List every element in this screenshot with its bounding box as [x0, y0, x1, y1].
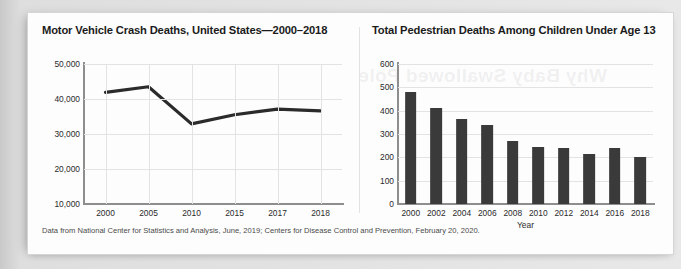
x-axis-tick-label: 2015: [225, 208, 244, 218]
gridline-vertical: [235, 64, 236, 204]
bar: [405, 92, 417, 204]
y-axis-tick-label: 300: [380, 129, 398, 139]
x-axis-tick-label: 2008: [503, 208, 522, 218]
gridline-horizontal: [84, 64, 342, 65]
bar: [481, 125, 493, 204]
source-footnote: Data from National Center for Statistics…: [42, 226, 480, 235]
bar: [609, 148, 621, 204]
x-axis-tick-label: 2006: [478, 208, 497, 218]
scanned-figure-card: Why Baby Swallowed Pole Motor Vehicle Cr…: [27, 12, 674, 255]
chart-panel-line: Motor Vehicle Crash Deaths, United State…: [36, 21, 356, 217]
y-axis-tick-label: 400: [380, 106, 398, 116]
x-axis-tick-label: 2018: [631, 208, 650, 218]
y-axis-tick-label: 200: [380, 152, 398, 162]
bar: [430, 108, 442, 204]
y-axis-tick-label: 0: [389, 199, 398, 209]
chart-panel-bar: Total Pedestrian Deaths Among Children U…: [366, 21, 666, 217]
y-axis-tick-label: 100: [380, 176, 398, 186]
gridline-horizontal: [398, 87, 653, 88]
x-axis-tick-label: 2016: [605, 208, 624, 218]
gridline-vertical: [106, 64, 107, 204]
x-axis-tick-label: 2005: [139, 208, 158, 218]
bar: [583, 154, 595, 204]
x-axis-tick-label: 2010: [529, 208, 548, 218]
x-axis-tick-label: 2018: [311, 208, 330, 218]
gridline-horizontal: [84, 169, 342, 170]
bar: [507, 141, 519, 204]
chart-title-bar: Total Pedestrian Deaths Among Children U…: [372, 24, 666, 40]
y-axis-tick-label: 20,000: [54, 164, 84, 174]
gridline-vertical: [278, 64, 279, 204]
line-path: [106, 87, 321, 124]
y-axis-tick-label: 30,000: [54, 129, 84, 139]
x-axis-tick-label: 2012: [554, 208, 573, 218]
bar: [456, 119, 468, 204]
gridline-horizontal: [398, 64, 653, 65]
y-axis-tick-label: 40,000: [54, 94, 84, 104]
bar: [532, 147, 544, 204]
x-axis-tick-label: 2000: [401, 208, 420, 218]
gridline-horizontal: [84, 99, 342, 100]
x-axis-tick-label: 2014: [580, 208, 599, 218]
y-axis-tick-label: 600: [380, 59, 398, 69]
x-axis-tick-label: 2000: [96, 208, 115, 218]
bar: [558, 148, 570, 204]
x-axis-tick-label: 2017: [268, 208, 287, 218]
x-axis-tick-label: 2004: [452, 208, 471, 218]
chart-title-line: Motor Vehicle Crash Deaths, United State…: [42, 24, 356, 40]
x-axis-tick-label: 2002: [427, 208, 446, 218]
page-background: Why Baby Swallowed Pole Motor Vehicle Cr…: [0, 0, 681, 269]
gridline-horizontal: [84, 134, 342, 135]
gridline-vertical: [321, 64, 322, 204]
gridline-vertical: [192, 64, 193, 204]
panel-divider: [359, 27, 360, 213]
gridline-vertical: [149, 64, 150, 204]
y-axis-tick-label: 10,000: [54, 199, 84, 209]
bar: [634, 157, 646, 204]
x-axis-tick-label: 2010: [182, 208, 201, 218]
y-axis-tick-label: 500: [380, 82, 398, 92]
y-axis-tick-label: 50,000: [54, 59, 84, 69]
